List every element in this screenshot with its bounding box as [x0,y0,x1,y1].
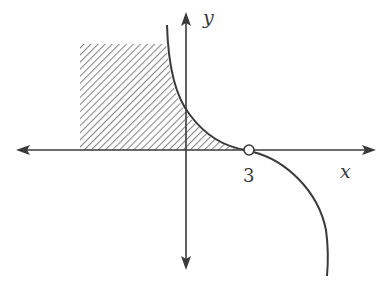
shaded-region [80,44,250,150]
tick-label-3: 3 [243,165,254,186]
y-axis-label: y [202,6,214,28]
x-axis-label: x [340,160,351,182]
open-circle-marker [244,145,254,155]
function-graph: y x 3 [0,0,380,282]
